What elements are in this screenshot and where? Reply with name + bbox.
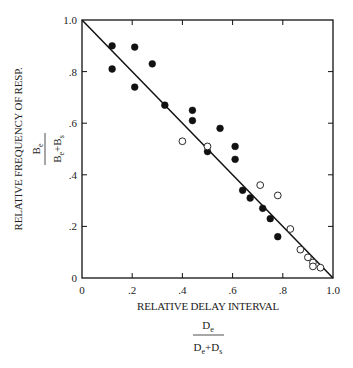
y-tick-label: .8 xyxy=(69,66,78,78)
y-axis-title-group: RELATIVE FREQUENCY OF RESP. xyxy=(12,67,24,230)
open-data-point xyxy=(297,246,304,253)
data-points xyxy=(109,42,324,271)
y-fraction-denominator: Be+Bs xyxy=(51,135,66,163)
axis-ticks: 0.2.4.6.81.00.2.4.6.81.0 xyxy=(63,14,340,296)
scatter-chart: 0.2.4.6.81.00.2.4.6.81.0 RELATIVE DELAY … xyxy=(0,0,353,368)
x-tick-label: .2 xyxy=(128,284,136,296)
filled-data-point xyxy=(109,66,116,73)
open-data-point xyxy=(317,264,324,271)
filled-data-point xyxy=(161,102,168,109)
x-fraction-numerator: De xyxy=(202,319,214,334)
filled-data-point xyxy=(217,125,224,132)
open-data-point xyxy=(274,192,281,199)
x-tick-label: .8 xyxy=(279,284,288,296)
filled-data-point xyxy=(267,215,274,222)
y-tick-label: .4 xyxy=(69,169,78,181)
x-axis-fraction: De De+Ds xyxy=(193,319,224,356)
open-data-point xyxy=(179,138,186,145)
open-data-point xyxy=(204,143,211,150)
x-tick-label: 0 xyxy=(79,284,85,296)
filled-data-point xyxy=(109,42,116,49)
filled-data-point xyxy=(232,156,239,163)
filled-data-point xyxy=(274,233,281,240)
open-data-point xyxy=(257,182,264,189)
x-tick-label: 1.0 xyxy=(326,284,340,296)
filled-data-point xyxy=(232,143,239,150)
x-fraction-denominator: De+Ds xyxy=(194,341,223,356)
y-tick-label: .2 xyxy=(69,220,77,232)
x-tick-label: .4 xyxy=(178,284,187,296)
filled-data-point xyxy=(189,117,196,124)
filled-data-point xyxy=(189,107,196,114)
filled-data-point xyxy=(131,84,138,91)
y-axis-label: RELATIVE FREQUENCY OF RESP. xyxy=(12,67,24,230)
y-axis-fraction: Be Be+Bs xyxy=(30,133,66,165)
x-tick-label: .6 xyxy=(228,284,237,296)
filled-data-point xyxy=(131,44,138,51)
x-axis-label: RELATIVE DELAY INTERVAL xyxy=(137,300,279,312)
y-fraction-numerator: Be xyxy=(30,143,45,154)
open-data-point xyxy=(310,263,317,270)
filled-data-point xyxy=(259,205,266,212)
filled-data-point xyxy=(239,187,246,194)
y-tick-label: 0 xyxy=(72,272,78,284)
filled-data-point xyxy=(149,60,156,67)
filled-data-point xyxy=(247,195,254,202)
y-tick-label: 1.0 xyxy=(63,14,77,26)
open-data-point xyxy=(287,226,294,233)
y-tick-label: .6 xyxy=(69,117,78,129)
